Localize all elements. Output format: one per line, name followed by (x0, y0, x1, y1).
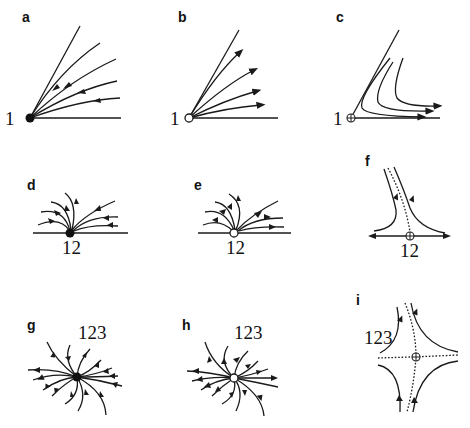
panel-d: d 12 (27, 177, 128, 258)
panel-label-f: f (365, 153, 370, 169)
stable-node-icon (66, 229, 75, 238)
unstable-node-icon (230, 374, 238, 382)
panel-label-c: c (336, 9, 344, 25)
point-label-f: 12 (400, 240, 419, 261)
panel-label-i: i (356, 292, 360, 308)
point-label-e: 12 (226, 237, 245, 258)
point-label-d: 12 (62, 237, 81, 258)
point-label-b: 1 (170, 108, 180, 129)
panel-f: f 12 (365, 153, 451, 261)
panel-label-b: b (178, 9, 187, 25)
panel-h: h 123 (182, 317, 278, 416)
panel-label-e: e (194, 177, 202, 193)
panel-b: b 1 (170, 9, 278, 129)
point-label-a: 1 (5, 108, 15, 129)
point-label-h: 123 (234, 322, 263, 343)
panel-a: a 1 (5, 9, 121, 129)
stable-node-icon (73, 373, 82, 382)
unstable-node-icon (185, 114, 193, 122)
panel-i: i 123 (356, 292, 458, 412)
saddle-point-icon (412, 353, 420, 361)
panel-label-h: h (182, 317, 191, 333)
stable-node-icon (26, 114, 35, 123)
unstable-node-icon (230, 229, 238, 237)
panel-c: c 1 (333, 9, 440, 129)
panel-g: g 123 (27, 317, 122, 415)
panel-label-a: a (22, 9, 30, 25)
panel-label-g: g (27, 317, 36, 333)
panel-label-d: d (27, 177, 36, 193)
saddle-point-icon (347, 114, 355, 122)
point-label-c: 1 (333, 108, 343, 129)
point-label-i: 123 (364, 327, 393, 348)
phase-portrait-figure: a 1 b 1 c 1 (0, 0, 470, 428)
point-label-g: 123 (78, 322, 107, 343)
panel-e: e 12 (194, 177, 291, 258)
saddle-point-icon (406, 232, 414, 240)
